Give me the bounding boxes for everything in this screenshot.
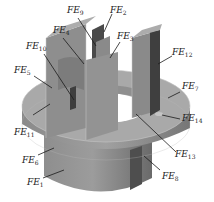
leader-fe12 (158, 56, 172, 64)
hole-fe14 (155, 112, 163, 116)
label-fe14: FE14 (182, 114, 202, 124)
lower-slot (130, 146, 142, 190)
label-fe13: FE13 (175, 150, 195, 160)
label-fe11: FE11 (14, 128, 34, 138)
label-fe12: FE12 (172, 48, 192, 58)
label-fe8: FE8 (162, 172, 179, 182)
label-fe5: FE5 (14, 66, 31, 76)
leader-fe2 (104, 14, 112, 32)
front-column (86, 52, 118, 140)
label-fe3: FE3 (117, 32, 134, 42)
right-tower (132, 24, 162, 118)
label-fe9: FE9 (67, 6, 84, 16)
label-fe1: FE1 (27, 178, 44, 188)
machined-part-figure (0, 0, 214, 202)
label-fe6: FE6 (22, 156, 39, 166)
label-fe10: FE10 (26, 42, 46, 52)
label-fe4: FE4 (53, 26, 70, 36)
label-fe2: FE2 (110, 6, 127, 16)
label-fe7: FE7 (182, 82, 199, 92)
